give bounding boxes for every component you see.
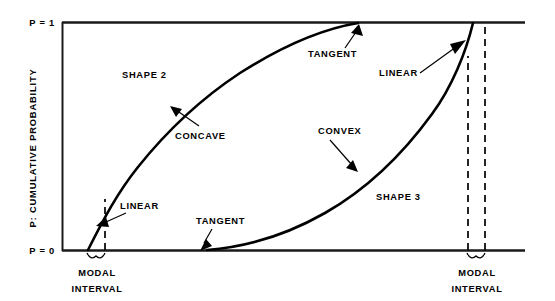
- tangent-top-leader-line: [345, 32, 356, 48]
- linear-left-label: LINEAR: [120, 201, 159, 211]
- y-axis-tick-bottom: P = 0: [29, 246, 55, 256]
- tangent-bottom-label: TANGENT: [196, 216, 245, 226]
- linear-right-leader-line: [420, 47, 456, 73]
- convex-arrowhead: [346, 160, 358, 172]
- y-axis-title: P: CUMULATIVE PROBABILITY: [28, 69, 38, 228]
- tangent-top-arrowhead: [351, 24, 363, 36]
- linear-left-leader-line: [106, 213, 126, 222]
- shape2-label: SHAPE 2: [122, 70, 167, 80]
- figure-container: P = 1 P = 0 P: CUMULATIVE PROBABILITY MO…: [0, 0, 555, 301]
- convex-label: CONVEX: [318, 126, 362, 136]
- modal-interval-left-label-line1: MODAL: [78, 268, 116, 278]
- modal-interval-right-label-line2: INTERVAL: [451, 284, 502, 294]
- y-axis-tick-top: P = 1: [29, 18, 55, 28]
- convex-leader-line: [330, 140, 352, 165]
- linear-left-arrowhead: [96, 217, 109, 227]
- concave-arrowhead: [170, 106, 182, 117]
- cumulative-probability-diagram: P = 1 P = 0 P: CUMULATIVE PROBABILITY MO…: [0, 0, 555, 301]
- concave-label: CONCAVE: [175, 131, 226, 141]
- tangent-top-label: TANGENT: [308, 49, 357, 59]
- modal-interval-right-label-line1: MODAL: [458, 268, 496, 278]
- modal-interval-left-brace: [87, 253, 105, 258]
- modal-interval-right-brace: [467, 253, 485, 258]
- linear-right-label: LINEAR: [379, 68, 418, 78]
- modal-interval-left-label-line2: INTERVAL: [71, 284, 122, 294]
- shape3-label: SHAPE 3: [376, 192, 421, 202]
